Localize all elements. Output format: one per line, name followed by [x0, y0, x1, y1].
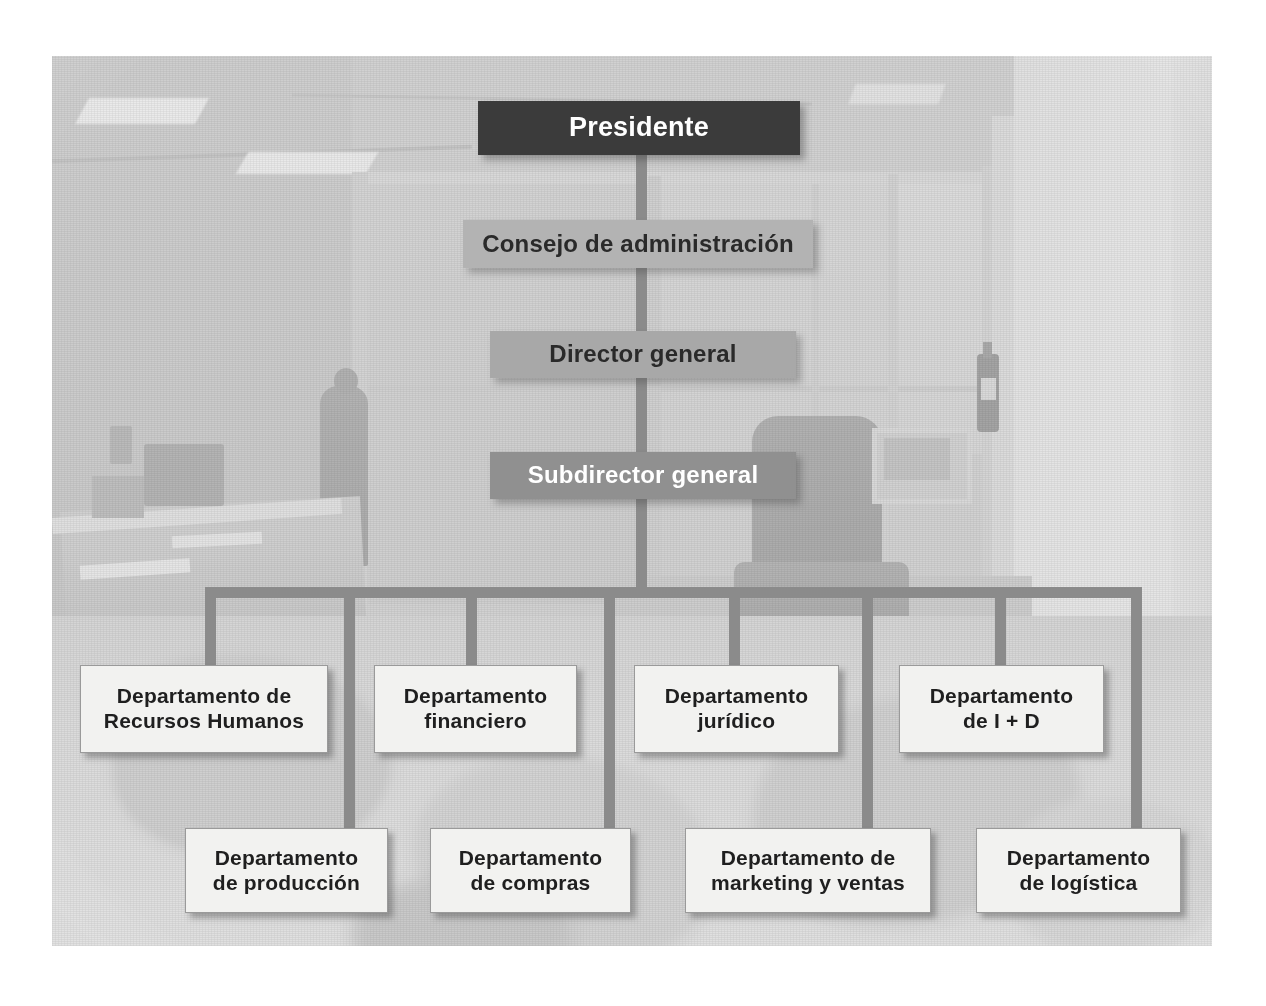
node-departamento-i-mas-d[interactable]: Departamento de I + D [899, 665, 1104, 753]
connector-drop-produccion [344, 597, 355, 832]
connector-drop-logistica [1131, 597, 1142, 832]
node-juridico-label: Departamento jurídico [665, 684, 809, 734]
connector-drop-compras [604, 597, 615, 832]
organizational-chart-page: Presidente Consejo de administración Dir… [0, 0, 1266, 1006]
photo-desk-cup [110, 426, 132, 464]
node-financiero-line2: financiero [424, 709, 526, 732]
photo-fire-extinguisher-neck [983, 342, 992, 358]
node-marketing-line2: marketing y ventas [711, 871, 905, 894]
node-rrhh-line1: Departamento de [117, 684, 292, 707]
photo-glass-panel-3 [898, 184, 982, 454]
node-marketing-line1: Departamento de [721, 846, 896, 869]
node-logistica-line2: de logística [1020, 871, 1138, 894]
node-departamento-compras[interactable]: Departamento de compras [430, 828, 631, 913]
node-financiero-line1: Departamento [404, 684, 548, 707]
node-marketing-label: Departamento de marketing y ventas [711, 846, 905, 896]
node-departamento-financiero[interactable]: Departamento financiero [374, 665, 577, 753]
photo-ceiling-light-3 [848, 84, 945, 104]
node-produccion-label: Departamento de producción [213, 846, 360, 896]
node-consejo-label: Consejo de administración [482, 230, 794, 258]
photo-person-head [334, 368, 358, 394]
node-produccion-line1: Departamento [215, 846, 359, 869]
photo-right-monitor-screen [884, 438, 950, 480]
node-logistica-label: Departamento de logística [1007, 846, 1151, 896]
node-departamento-marketing-y-ventas[interactable]: Departamento de marketing y ventas [685, 828, 931, 913]
photo-office-chair-back [752, 416, 882, 586]
photo-ceiling-light-2 [236, 152, 379, 174]
node-juridico-line2: jurídico [698, 709, 775, 732]
connector-drop-id [995, 597, 1006, 667]
node-departamento-produccion[interactable]: Departamento de producción [185, 828, 388, 913]
node-financiero-label: Departamento financiero [404, 684, 548, 734]
node-subdirector-general[interactable]: Subdirector general [490, 452, 796, 499]
office-photo-background [52, 56, 1212, 946]
connector-director-to-subdirector [636, 378, 647, 455]
connector-drop-marketing [862, 597, 873, 832]
node-subdirector-label: Subdirector general [528, 461, 759, 489]
connector-subdirector-to-bus [636, 498, 647, 590]
node-departamento-logistica[interactable]: Departamento de logística [976, 828, 1181, 913]
node-departamento-juridico[interactable]: Departamento jurídico [634, 665, 839, 753]
node-director-general[interactable]: Director general [490, 331, 796, 378]
photo-mullion-vertical [812, 184, 819, 454]
node-consejo-de-administracion[interactable]: Consejo de administración [463, 220, 813, 268]
connector-drop-juridico [729, 597, 740, 667]
node-compras-line2: de compras [471, 871, 591, 894]
connector-drop-rrhh [205, 597, 216, 667]
node-rrhh-label: Departamento de Recursos Humanos [104, 684, 304, 734]
node-juridico-line1: Departamento [665, 684, 809, 707]
connector-consejo-to-director [636, 266, 647, 333]
node-id-line1: Departamento [930, 684, 1074, 707]
node-rrhh-line2: Recursos Humanos [104, 709, 304, 732]
node-compras-label: Departamento de compras [459, 846, 603, 896]
photo-left-equipment [92, 476, 144, 518]
connector-presidente-to-consejo [636, 155, 647, 223]
node-presidente[interactable]: Presidente [478, 101, 800, 155]
node-logistica-line1: Departamento [1007, 846, 1151, 869]
photo-left-monitor [144, 444, 224, 506]
node-compras-line1: Departamento [459, 846, 603, 869]
photo-ceiling-light-1 [75, 98, 209, 124]
node-director-label: Director general [549, 340, 736, 368]
node-produccion-line2: de producción [213, 871, 360, 894]
photo-fire-extinguisher-label [981, 378, 996, 400]
node-departamento-recursos-humanos[interactable]: Departamento de Recursos Humanos [80, 665, 328, 753]
node-id-line2: de I + D [963, 709, 1040, 732]
connector-drop-financiero [466, 597, 477, 667]
node-id-label: Departamento de I + D [930, 684, 1074, 734]
node-presidente-label: Presidente [569, 112, 709, 144]
